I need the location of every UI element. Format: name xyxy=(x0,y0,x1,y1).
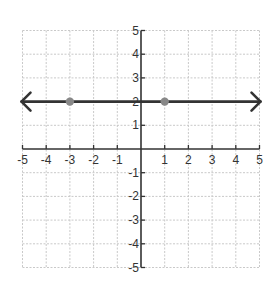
x-tick-label: 3 xyxy=(209,153,216,167)
coordinate-plane: -5-4-3-2-11234554321-1-2-3-4-5 xyxy=(0,0,279,290)
y-tick-label: -5 xyxy=(128,261,139,275)
x-tick-label: 1 xyxy=(161,153,168,167)
x-tick-label: 4 xyxy=(232,153,239,167)
plotted-point xyxy=(66,97,74,105)
plotted-point xyxy=(161,97,169,105)
x-tick-label: -1 xyxy=(112,153,123,167)
x-tick-label: -5 xyxy=(17,153,28,167)
x-tick-label: -2 xyxy=(88,153,99,167)
y-tick-label: 4 xyxy=(132,47,139,61)
x-tick-label: -4 xyxy=(41,153,52,167)
y-tick-label: -2 xyxy=(128,189,139,203)
y-tick-label: 1 xyxy=(132,118,139,132)
x-tick-label: -3 xyxy=(65,153,76,167)
y-tick-label: 5 xyxy=(132,24,139,38)
y-tick-label: -3 xyxy=(128,213,139,227)
y-tick-label: -4 xyxy=(128,237,139,251)
y-tick-label: -1 xyxy=(128,166,139,180)
x-tick-label: 5 xyxy=(256,153,263,167)
axes xyxy=(23,31,260,268)
y-tick-label: 3 xyxy=(132,71,139,85)
x-tick-label: 2 xyxy=(185,153,192,167)
